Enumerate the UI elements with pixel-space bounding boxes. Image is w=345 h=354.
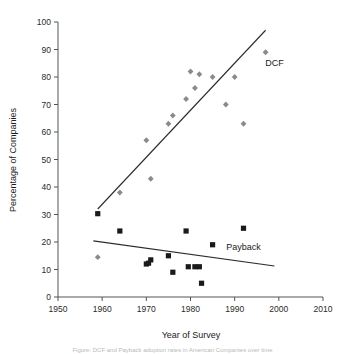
- data-point-payback: [117, 228, 122, 233]
- data-point-payback: [241, 226, 246, 231]
- series-labels: DCFPayback: [226, 58, 284, 252]
- trend-line-dcf: [98, 30, 266, 209]
- data-point-payback: [166, 253, 171, 258]
- y-tick-label: 30: [42, 210, 52, 220]
- y-tick-label: 40: [42, 182, 52, 192]
- data-point-dcf: [183, 96, 189, 102]
- data-point-dcf: [263, 49, 269, 55]
- y-tick-label: 10: [42, 265, 52, 275]
- series-label-payback: Payback: [226, 242, 261, 252]
- data-point-payback: [197, 264, 202, 269]
- axis-tick-labels: 0102030405060708090100195019601970198019…: [37, 17, 333, 314]
- x-tick-label: 1960: [93, 304, 112, 314]
- series-label-dcf: DCF: [265, 58, 284, 68]
- y-tick-label: 80: [42, 72, 52, 82]
- data-point-payback: [210, 242, 215, 247]
- data-point-payback: [170, 270, 175, 275]
- y-axis-title: Percentage of Companies: [8, 107, 18, 212]
- scatter-chart: 0102030405060708090100195019601970198019…: [0, 0, 345, 354]
- data-point-dcf: [192, 85, 198, 91]
- data-point-dcf: [95, 254, 101, 260]
- data-point-dcf: [210, 74, 216, 80]
- data-point-dcf: [170, 113, 176, 119]
- data-point-dcf: [196, 71, 202, 77]
- x-tick-label: 1990: [225, 304, 244, 314]
- data-point-payback: [199, 281, 204, 286]
- data-point-dcf: [166, 121, 172, 127]
- y-tick-label: 50: [42, 155, 52, 165]
- data-point-dcf: [143, 137, 149, 143]
- data-point-payback: [148, 257, 153, 262]
- data-point-payback: [186, 264, 191, 269]
- data-point-dcf: [117, 190, 123, 196]
- data-point-dcf: [148, 176, 154, 182]
- y-tick-label: 70: [42, 100, 52, 110]
- x-tick-label: 1970: [137, 304, 156, 314]
- chart-figure: 0102030405060708090100195019601970198019…: [0, 0, 345, 354]
- x-tick-label: 1950: [49, 304, 68, 314]
- y-tick-label: 20: [42, 237, 52, 247]
- data-point-payback: [95, 211, 100, 216]
- data-point-dcf: [241, 121, 247, 127]
- y-tick-label: 0: [46, 292, 51, 302]
- figure-caption: Figure: DCF and Payback adoption rates i…: [0, 345, 345, 354]
- data-point-dcf: [188, 69, 194, 75]
- y-tick-label: 90: [42, 45, 52, 55]
- data-point-payback: [183, 228, 188, 233]
- data-point-dcf: [223, 102, 229, 108]
- x-tick-label: 2000: [269, 304, 288, 314]
- data-point-dcf: [232, 74, 238, 80]
- y-tick-label: 100: [37, 17, 51, 27]
- x-tick-label: 2010: [314, 304, 333, 314]
- x-axis-title: Year of Survey: [162, 330, 221, 340]
- y-tick-label: 60: [42, 127, 52, 137]
- x-tick-label: 1980: [181, 304, 200, 314]
